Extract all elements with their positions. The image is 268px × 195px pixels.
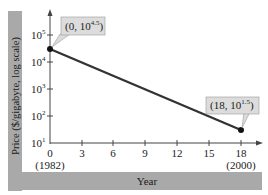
y-tick-label: 103 — [31, 82, 46, 95]
x-tick-label: 9 — [142, 147, 148, 159]
callout-end: (18, 101.5) — [206, 97, 259, 128]
x-tick-label: 6 — [110, 147, 116, 159]
x-tick-sublabel-end: (2000) — [226, 159, 256, 172]
x-axis-arrow-icon — [256, 141, 263, 146]
x-tick-label: 12 — [172, 147, 183, 159]
x-tick-label: 0 — [47, 147, 53, 159]
callout-start: (0, 104.5) — [52, 17, 105, 47]
y-axis-arrow-icon — [48, 9, 53, 16]
price-line — [50, 49, 241, 130]
chart-plot: 105 104 103 102 101 0 3 6 9 12 15 18 (19… — [0, 0, 268, 195]
y-tick-label: 104 — [31, 55, 46, 68]
end-point — [238, 127, 244, 133]
x-tick-label: 18 — [236, 147, 248, 159]
y-tick-label: 101 — [31, 136, 46, 149]
x-tick-label: 3 — [79, 147, 85, 159]
y-tick-label: 102 — [31, 109, 46, 122]
y-tick-labels: 105 104 103 102 101 — [31, 28, 46, 149]
y-tick-label: 105 — [31, 28, 46, 41]
x-tick-label: 15 — [204, 147, 216, 159]
x-tick-sublabel-start: (1982) — [35, 159, 65, 172]
x-tick-labels: 0 3 6 9 12 15 18 (1982) (2000) — [35, 147, 256, 172]
